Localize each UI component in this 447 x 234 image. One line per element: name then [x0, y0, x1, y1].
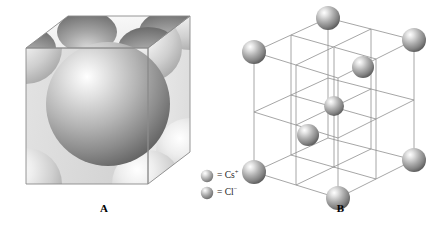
corner-ion-top-back: [316, 6, 340, 30]
sphere-cesium-icon: [200, 169, 214, 183]
panel-b-label: B: [238, 202, 443, 214]
legend-item-cesium: = Cs+: [200, 168, 270, 184]
panel-a-label: A: [0, 202, 208, 214]
wire-bottom-grid-a2: [296, 149, 371, 185]
legend-label-cesium: = Cs+: [217, 171, 238, 181]
legend-equals-chloride: =: [217, 187, 222, 197]
legend-formula-cesium: Cs: [225, 170, 235, 180]
corner-ion-top-left: [242, 40, 266, 64]
legend-label-chloride: = Cl−: [217, 188, 237, 198]
central-ion-sphere: [46, 42, 170, 166]
panel-a-svg: [8, 4, 208, 200]
legend-charge-chloride: −: [234, 185, 238, 192]
corner-ion-bottom-right: [402, 148, 426, 172]
panel-a-space-filling-model: [8, 4, 208, 200]
figure-root: A: [0, 0, 447, 234]
legend-item-chloride: = Cl−: [200, 185, 270, 201]
interior-ion-lower: [297, 124, 319, 146]
legend-charge-cesium: +: [235, 168, 239, 175]
legend-equals-cesium: =: [217, 170, 222, 180]
sphere-chloride-icon: [200, 186, 214, 200]
corner-ion-top-right: [402, 28, 426, 52]
lattice-interior-ions: [297, 56, 374, 146]
legend: = Cs+ = Cl−: [200, 168, 270, 202]
legend-formula-chloride: Cl: [225, 187, 234, 197]
interior-ion-center: [324, 96, 344, 116]
interior-ion-upper: [352, 56, 374, 78]
